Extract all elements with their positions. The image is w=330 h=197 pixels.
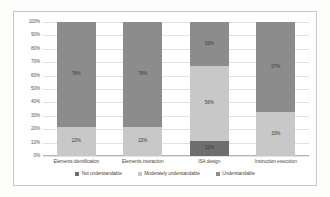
bar-segment[interactable]: 67%: [256, 22, 295, 112]
bar-slot: 67%33%: [243, 22, 310, 156]
legend-label: Not understandable: [82, 172, 122, 177]
legend-swatch-icon: [138, 172, 142, 176]
bar-segment-value-label: 78%: [72, 72, 81, 77]
y-axis-tick-label: 80%: [14, 47, 40, 52]
x-axis-category-labels: Elements identificationElements interact…: [43, 159, 309, 164]
legend-swatch-icon: [75, 172, 79, 176]
bar-segment[interactable]: 22%: [123, 127, 162, 156]
y-axis-tick-label: 30%: [14, 114, 40, 119]
bar-segment[interactable]: 56%: [190, 66, 229, 141]
bar-segment-value-label: 56%: [205, 101, 214, 106]
y-axis-tick-label: 50%: [14, 87, 40, 92]
bar-slot: 78%22%: [110, 22, 177, 156]
legend-swatch-icon: [216, 172, 220, 176]
y-axis-tick-label: 20%: [14, 127, 40, 132]
bar-slot: 33%56%11%: [176, 22, 243, 156]
plot-wrapper: 100%90%80%70%60%50%40%30%20%10%0% 78%22%…: [14, 12, 316, 185]
bar-segment-value-label: 22%: [72, 139, 81, 144]
x-axis-category-label: Instruction execution: [243, 159, 310, 164]
bar-segment-value-label: 33%: [271, 132, 280, 137]
bar-segment[interactable]: 33%: [190, 22, 229, 66]
stacked-bar[interactable]: 78%22%: [57, 22, 96, 156]
y-axis-tick-label: 10%: [14, 140, 40, 145]
bar-group: 78%22%78%22%33%56%11%67%33%: [43, 22, 309, 156]
stacked-bar[interactable]: 78%22%: [123, 22, 162, 156]
bar-segment[interactable]: 33%: [256, 112, 295, 156]
bar-segment-value-label: 22%: [138, 139, 147, 144]
bar-segment[interactable]: 22%: [57, 127, 96, 156]
legend-item[interactable]: Not understandable: [75, 172, 122, 177]
stacked-bar[interactable]: 33%56%11%: [190, 22, 229, 156]
stacked-bar[interactable]: 67%33%: [256, 22, 295, 156]
y-axis-tick-label: 0%: [14, 154, 40, 159]
legend-label: Understandable: [222, 172, 254, 177]
legend-item[interactable]: Understandable: [216, 172, 255, 177]
x-axis-category-label: ISA design: [176, 159, 243, 164]
plot-area: 78%22%78%22%33%56%11%67%33%: [43, 22, 309, 156]
bar-segment[interactable]: 11%: [190, 141, 229, 156]
y-axis-tick-label: 70%: [14, 60, 40, 65]
bar-segment-value-label: 33%: [205, 42, 214, 47]
bar-segment-value-label: 11%: [205, 146, 214, 151]
y-axis-tick-label: 60%: [14, 73, 40, 78]
gridline: [43, 156, 309, 157]
y-axis-tick-label: 40%: [14, 100, 40, 105]
legend-label: Moderately understandable: [144, 172, 200, 177]
bar-slot: 78%22%: [43, 22, 110, 156]
x-axis-category-label: Elements identification: [43, 159, 110, 164]
bar-segment[interactable]: 78%: [57, 22, 96, 127]
bar-segment-value-label: 78%: [138, 72, 147, 77]
bar-segment[interactable]: 78%: [123, 22, 162, 127]
chart-container: 100%90%80%70%60%50%40%30%20%10%0% 78%22%…: [13, 11, 317, 186]
bar-segment-value-label: 67%: [271, 65, 280, 70]
y-axis-tick-label: 100%: [14, 20, 40, 25]
chart-legend: Not understandableModerately understanda…: [14, 172, 316, 177]
y-axis: 100%90%80%70%60%50%40%30%20%10%0%: [14, 22, 42, 156]
y-axis-tick-label: 90%: [14, 33, 40, 38]
legend-item[interactable]: Moderately understandable: [138, 172, 200, 177]
x-axis-category-label: Elements interaction: [110, 159, 177, 164]
